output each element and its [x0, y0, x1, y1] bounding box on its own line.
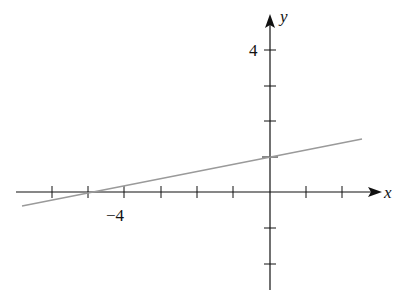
- y-tick-label-4: 4: [249, 41, 258, 60]
- x-axis-label: x: [383, 183, 392, 202]
- y-axis: [265, 14, 275, 290]
- plotted-line: [22, 139, 362, 206]
- x-tick-label-minus4: −4: [106, 206, 125, 225]
- x-axis: [16, 187, 382, 197]
- y-axis-label: y: [278, 7, 288, 26]
- coordinate-plane: x y −4 4: [0, 0, 406, 290]
